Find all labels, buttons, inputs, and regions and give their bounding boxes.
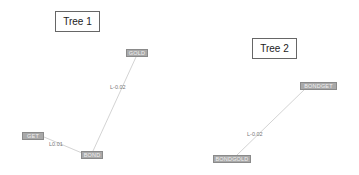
tree-2-title: Tree 2 xyxy=(252,38,297,59)
edge-bond-gold xyxy=(93,57,136,151)
tree-1-title: Tree 1 xyxy=(55,11,100,32)
edge-bondgold-bondget xyxy=(237,89,305,155)
edge-label-get-bond: L0.01 xyxy=(49,141,63,147)
node-bond[interactable]: BOND xyxy=(81,151,103,159)
node-bondgold[interactable]: BONDGOLD xyxy=(213,155,251,163)
node-bondget[interactable]: BONDGET xyxy=(300,82,337,90)
edge-label-bond-gold: L-0.02 xyxy=(110,84,126,90)
node-gold[interactable]: GOLD xyxy=(126,49,148,57)
node-get[interactable]: GET xyxy=(22,132,44,140)
edge-label-bondgold-bondget: L-0.02 xyxy=(247,131,263,137)
